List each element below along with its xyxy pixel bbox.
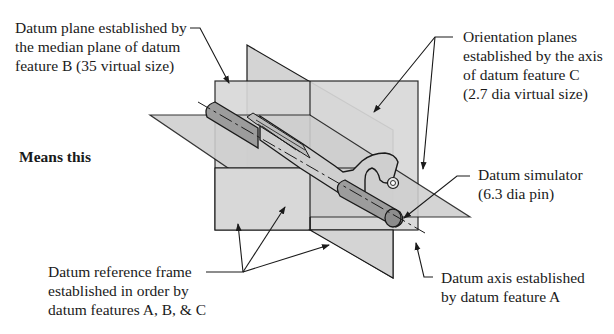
label-orientation-planes: Orientation planes established by the ax…	[463, 27, 603, 103]
label-line: established in order by	[48, 281, 206, 300]
label-line: of datum feature C	[463, 65, 603, 84]
label-line: established by the axis	[463, 46, 603, 65]
label-line: datum features A, B, & C	[48, 300, 206, 319]
label-means-this: Means this	[19, 147, 91, 166]
label-line: (6.3 dia pin)	[478, 184, 583, 203]
label-line: Datum reference frame	[48, 262, 206, 281]
label-datum-reference-frame: Datum reference frame established in ord…	[48, 262, 206, 319]
label-line: feature B (35 virtual size)	[15, 56, 187, 75]
label-line: by datum feature A	[441, 287, 585, 306]
label-datum-plane-b: Datum plane established by the median pl…	[15, 18, 187, 75]
label-line: Datum plane established by	[15, 18, 187, 37]
label-line: Orientation planes	[463, 27, 603, 46]
label-line: (2.7 dia virtual size)	[463, 84, 603, 103]
label-line: the median plane of datum	[15, 37, 187, 56]
label-line: Datum axis established	[441, 268, 585, 287]
label-datum-axis: Datum axis established by datum feature …	[441, 268, 585, 306]
label-line: Datum simulator	[478, 165, 583, 184]
label-datum-simulator: Datum simulator (6.3 dia pin)	[478, 165, 583, 203]
label-text: Means this	[19, 148, 91, 165]
